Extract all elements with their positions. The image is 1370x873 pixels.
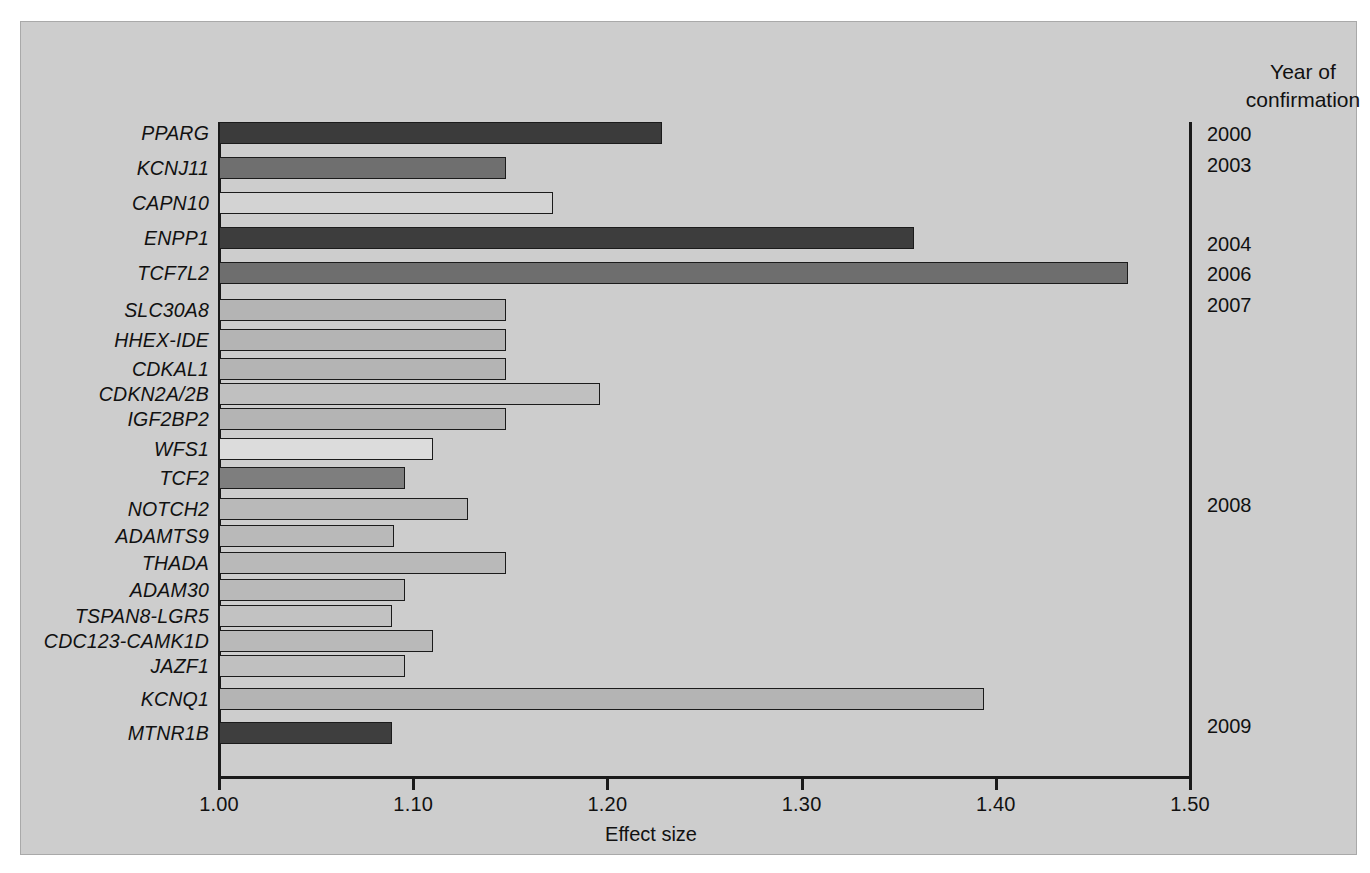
gene-label-adamts9: ADAMTS9 — [115, 525, 209, 548]
x-tick-label: 1.30 — [782, 793, 822, 816]
gene-label-enpp1: ENPP1 — [144, 227, 209, 250]
bar-cdkal1 — [219, 358, 506, 380]
year-label-2003: 2003 — [1207, 154, 1252, 177]
year-label-2006: 2006 — [1207, 263, 1252, 286]
x-tick — [606, 779, 609, 790]
gene-label-hhex-ide: HHEX-IDE — [114, 329, 209, 352]
bar-tcf7l2 — [219, 262, 1128, 284]
x-tick — [1189, 779, 1192, 790]
gene-label-jazf1: JAZF1 — [151, 655, 209, 678]
x-tick-label: 1.50 — [1170, 793, 1210, 816]
x-tick-label: 1.20 — [588, 793, 628, 816]
gene-label-tspan8-lgr5: TSPAN8-LGR5 — [75, 605, 209, 628]
bar-tspan8-lgr5 — [219, 605, 392, 627]
gene-label-pparg: PPARG — [141, 122, 209, 145]
gene-label-capn10: CAPN10 — [132, 192, 209, 215]
x-tick-label: 1.40 — [976, 793, 1016, 816]
gene-label-tcf7l2: TCF7L2 — [137, 262, 209, 285]
bar-cdc123-camk1d — [219, 630, 433, 652]
gene-label-cdc123-camk1d: CDC123-CAMK1D — [44, 630, 209, 653]
bar-slc30a8 — [219, 299, 506, 321]
bar-notch2 — [219, 498, 468, 520]
gene-label-wfs1: WFS1 — [154, 438, 209, 461]
gene-label-tcf2: TCF2 — [159, 467, 209, 490]
x-tick — [801, 779, 804, 790]
year-label-2000: 2000 — [1207, 123, 1252, 146]
x-axis-title-text: Effect size — [605, 823, 697, 845]
x-axis-line — [218, 776, 1192, 779]
bar-adamts9 — [219, 525, 394, 547]
year-label-2008: 2008 — [1207, 494, 1252, 517]
gene-label-cdkal1: CDKAL1 — [132, 358, 209, 381]
bar-wfs1 — [219, 438, 433, 460]
bar-jazf1 — [219, 655, 405, 677]
x-axis-title: Effect size — [0, 823, 1370, 846]
gene-label-igf2bp2: IGF2BP2 — [127, 408, 209, 431]
year-header-line1: Year of — [1228, 58, 1370, 86]
bar-enpp1 — [219, 227, 914, 249]
bar-capn10 — [219, 192, 553, 214]
gene-label-adam30: ADAM30 — [130, 579, 209, 602]
gene-label-thada: THADA — [142, 552, 209, 575]
year-header-line2: confirmation — [1228, 86, 1370, 114]
bar-mtnr1b — [219, 722, 392, 744]
x-tick — [995, 779, 998, 790]
gene-label-cdkn2a-2b: CDKN2A/2B — [99, 383, 209, 406]
gene-label-slc30a8: SLC30A8 — [124, 299, 209, 322]
gene-label-notch2: NOTCH2 — [128, 498, 209, 521]
x-tick-label: 1.10 — [393, 793, 433, 816]
gene-label-kcnj11: KCNJ11 — [137, 157, 209, 180]
bar-kcnj11 — [219, 157, 506, 179]
bar-hhex-ide — [219, 329, 506, 351]
bar-adam30 — [219, 579, 405, 601]
year-label-2004: 2004 — [1207, 233, 1252, 256]
x-tick-label: 1.00 — [199, 793, 239, 816]
x-tick — [412, 779, 415, 790]
figure-root: Year of confirmation 1.001.101.201.301.4… — [0, 0, 1370, 873]
year-label-2009: 2009 — [1207, 715, 1252, 738]
x-tick — [218, 779, 221, 790]
bar-igf2bp2 — [219, 408, 506, 430]
bar-cdkn2a-2b — [219, 383, 600, 405]
bar-thada — [219, 552, 506, 574]
gene-label-kcnq1: KCNQ1 — [141, 688, 209, 711]
bar-pparg — [219, 122, 662, 144]
year-label-2007: 2007 — [1207, 294, 1252, 317]
bar-tcf2 — [219, 467, 405, 489]
bar-kcnq1 — [219, 688, 984, 710]
gene-label-mtnr1b: MTNR1B — [128, 722, 209, 745]
year-column-header: Year of confirmation — [1228, 58, 1370, 114]
